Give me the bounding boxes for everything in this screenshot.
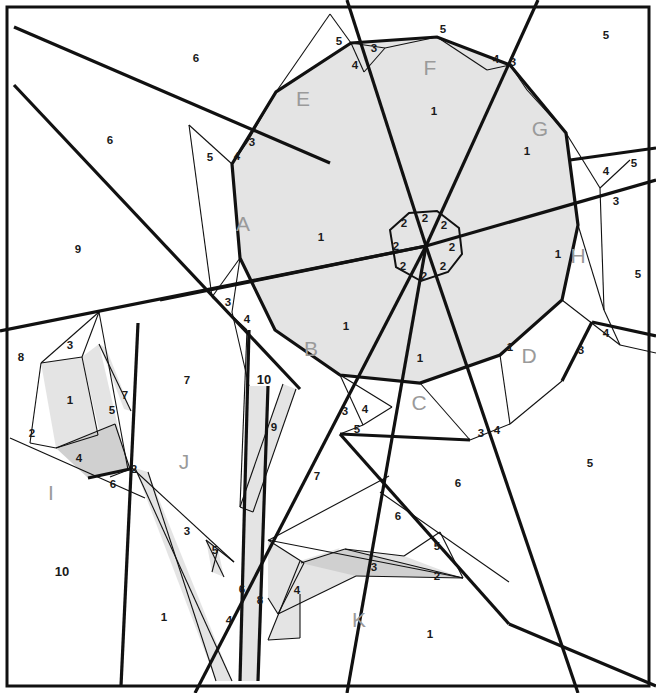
piece-number-4-52: 4 — [494, 424, 501, 436]
region-label-D: D — [521, 344, 536, 367]
piece-number-6-8: 6 — [107, 134, 113, 146]
region-label-G: G — [532, 117, 548, 140]
piece-number-5-64: 5 — [434, 540, 441, 552]
piece-number-9-47: 9 — [271, 421, 277, 433]
piece-number-1-13: 1 — [431, 105, 438, 117]
region-label-K: K — [352, 608, 366, 631]
piece-number-4-4: 4 — [352, 59, 359, 71]
piece-number-2-28: 2 — [393, 240, 399, 252]
region-label-J: J — [179, 450, 190, 473]
piece-number-6-60: 6 — [239, 583, 245, 595]
piece-number-5-18: 5 — [635, 268, 642, 280]
piece-number-5-2: 5 — [336, 35, 343, 47]
piece-number-2-27: 2 — [400, 260, 406, 272]
piece-number-5-1: 5 — [440, 23, 447, 35]
region-label-A: A — [236, 212, 250, 235]
piece-number-3-6: 3 — [510, 56, 516, 68]
piece-number-3-11: 3 — [249, 136, 255, 148]
piece-number-7-53: 7 — [314, 470, 320, 482]
piece-number-1-57: 1 — [161, 611, 168, 623]
piece-number-4-35: 4 — [603, 327, 610, 339]
piece-number-8-36: 8 — [18, 351, 25, 363]
piece-number-2-39: 2 — [29, 427, 35, 439]
region-label-H: H — [570, 244, 585, 267]
piece-number-1-14: 1 — [524, 145, 531, 157]
piece-number-5-41: 5 — [109, 404, 116, 416]
piece-number-9-20: 9 — [75, 243, 81, 255]
piece-number-3-3: 3 — [371, 42, 377, 54]
region-label-B: B — [304, 337, 318, 360]
region-label-E: E — [296, 87, 310, 110]
region-label-I: I — [48, 481, 54, 504]
piece-number-10-56: 10 — [55, 564, 69, 579]
piece-number-5-17: 5 — [631, 157, 638, 169]
piece-number-2-25: 2 — [440, 260, 446, 272]
piece-number-2-44: 2 — [131, 463, 137, 475]
piece-number-6-0: 6 — [193, 52, 199, 64]
piece-number-4-30: 4 — [244, 313, 251, 325]
piece-number-6-63: 6 — [395, 510, 401, 522]
diagram-canvas: ABCDEFGHIJK 6553443565431114355192222222… — [0, 0, 656, 693]
piece-number-3-37: 3 — [67, 339, 73, 351]
dissection-figure: ABCDEFGHIJK 6553443565431114355192222222… — [0, 0, 656, 693]
piece-number-5-59: 5 — [212, 544, 219, 556]
piece-number-3-51: 3 — [478, 427, 484, 439]
piece-number-4-40: 4 — [76, 452, 83, 464]
piece-number-3-48: 3 — [342, 405, 348, 417]
piece-number-10-46: 10 — [257, 372, 271, 387]
piece-number-4-10: 4 — [234, 150, 241, 162]
piece-number-3-66: 3 — [371, 561, 377, 573]
piece-number-4-5: 4 — [493, 53, 500, 65]
piece-number-2-23: 2 — [441, 219, 447, 231]
piece-number-1-68: 1 — [427, 628, 434, 640]
piece-number-7-42: 7 — [122, 389, 128, 401]
piece-number-2-26: 2 — [421, 270, 427, 282]
piece-number-1-19: 1 — [555, 248, 562, 260]
piece-number-5-55: 5 — [587, 457, 594, 469]
piece-number-3-16: 3 — [613, 195, 619, 207]
piece-number-1-33: 1 — [507, 341, 514, 353]
piece-number-3-29: 3 — [225, 296, 231, 308]
piece-number-3-58: 3 — [184, 525, 190, 537]
piece-number-6-43: 6 — [110, 478, 116, 490]
piece-number-2-22: 2 — [422, 212, 428, 224]
piece-number-7-45: 7 — [184, 374, 190, 386]
piece-number-1-12: 1 — [318, 231, 325, 243]
piece-number-4-61: 4 — [226, 614, 233, 626]
piece-number-4-49: 4 — [362, 403, 369, 415]
region-label-F: F — [424, 56, 437, 79]
piece-number-4-15: 4 — [603, 165, 610, 177]
piece-number-1-31: 1 — [343, 320, 350, 332]
piece-number-6-54: 6 — [455, 477, 461, 489]
piece-number-4-65: 4 — [294, 584, 301, 596]
piece-number-2-24: 2 — [449, 241, 455, 253]
piece-number-2-67: 2 — [434, 570, 440, 582]
region-label-C: C — [411, 391, 426, 414]
piece-number-2-21: 2 — [401, 217, 407, 229]
piece-number-3-34: 3 — [578, 344, 584, 356]
piece-number-8-62: 8 — [257, 594, 264, 606]
piece-number-5-7: 5 — [603, 29, 610, 41]
piece-number-5-50: 5 — [354, 423, 361, 435]
piece-number-1-32: 1 — [417, 352, 424, 364]
piece-number-1-38: 1 — [67, 394, 74, 406]
piece-number-5-9: 5 — [207, 151, 214, 163]
